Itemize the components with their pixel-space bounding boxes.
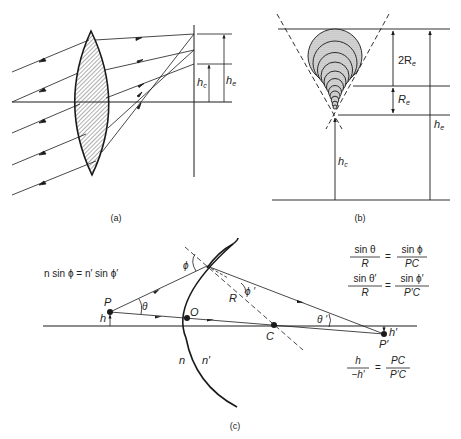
he-label-b: he — [434, 118, 444, 131]
svg-text:sin θ: sin θ — [354, 244, 376, 255]
panel-a: hc he (a) — [12, 25, 236, 223]
point-P-prime — [381, 331, 387, 337]
refracting-surface-top — [233, 238, 238, 244]
label-h: h — [100, 312, 106, 324]
equation-3: h −h′ = PC P′C — [347, 355, 410, 380]
caption-b: (b) — [355, 213, 366, 223]
svg-text:sin ϕ: sin ϕ — [401, 244, 423, 255]
two-re-label: 2Re — [398, 54, 416, 67]
phi-arc — [193, 254, 196, 271]
point-C — [271, 322, 277, 328]
label-P-prime: P′ — [379, 338, 389, 350]
label-O: O — [190, 306, 199, 318]
svg-text:PC: PC — [391, 355, 406, 366]
label-phi: ϕ — [183, 260, 189, 271]
optics-diagram: hc he (a) — [0, 0, 461, 439]
ray-chief — [110, 312, 384, 334]
lens — [75, 31, 109, 175]
label-R: R — [229, 292, 237, 304]
svg-text:R: R — [361, 287, 368, 298]
refracted-rays — [95, 34, 194, 152]
svg-text:=: = — [385, 251, 391, 262]
label-h-prime: h′ — [389, 326, 398, 338]
point-P — [107, 309, 113, 315]
hc-label-a: hc — [197, 76, 207, 89]
svg-text:PC: PC — [405, 258, 420, 269]
svg-text:−h′: −h′ — [351, 369, 365, 380]
svg-text:=: = — [385, 280, 391, 291]
label-theta-prime: θ ′ — [317, 314, 328, 325]
hc-label-b: hc — [338, 155, 348, 168]
he-label-a: he — [226, 74, 236, 87]
panel-b: 2Re Re he hc (b) — [272, 14, 450, 223]
svg-text:P′C: P′C — [404, 287, 421, 298]
panel-c: P h O C P′ h′ n n′ R ϕ ϕ ′ θ θ ′ n sin ϕ… — [43, 238, 429, 431]
normal-extension — [207, 266, 228, 278]
svg-text:sin θ′: sin θ′ — [354, 273, 377, 284]
label-n: n — [179, 354, 185, 366]
caption-a: (a) — [111, 213, 122, 223]
label-theta: θ — [142, 301, 148, 312]
caption-c: (c) — [230, 421, 241, 431]
equation-2: sin θ′ R = sin ϕ′ P′C — [348, 273, 429, 298]
svg-text:R: R — [361, 258, 368, 269]
label-n-prime: n′ — [202, 354, 211, 366]
snell-equation: n sin ϕ = n′ sin ϕ′ — [44, 268, 118, 279]
label-P: P — [104, 296, 112, 308]
svg-text:=: = — [375, 362, 381, 373]
equation-1: sin θ R = sin ϕ PC — [350, 244, 427, 269]
circle-stack — [308, 29, 362, 109]
re-label: Re — [398, 93, 410, 106]
svg-text:sin ϕ′: sin ϕ′ — [400, 273, 423, 284]
label-C: C — [266, 330, 274, 342]
theta-prime-arc — [329, 314, 331, 327]
svg-text:h: h — [355, 355, 361, 366]
normal-line — [185, 247, 303, 350]
label-phi-prime: ϕ ′ — [245, 286, 256, 297]
svg-text:P′C: P′C — [390, 369, 407, 380]
